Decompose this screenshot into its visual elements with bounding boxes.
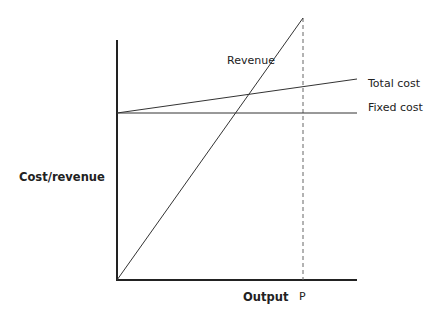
y-axis-label: Cost/revenue: [19, 170, 105, 184]
break-even-chart: [0, 0, 435, 317]
revenue-line: [117, 18, 303, 280]
revenue-label: Revenue: [227, 54, 275, 67]
x-axis-label: Output: [243, 290, 288, 304]
p-marker-label: P: [299, 290, 306, 303]
total-cost-label: Total cost: [368, 77, 420, 90]
total-cost-line: [117, 79, 357, 113]
fixed-cost-label: Fixed cost: [368, 101, 423, 114]
